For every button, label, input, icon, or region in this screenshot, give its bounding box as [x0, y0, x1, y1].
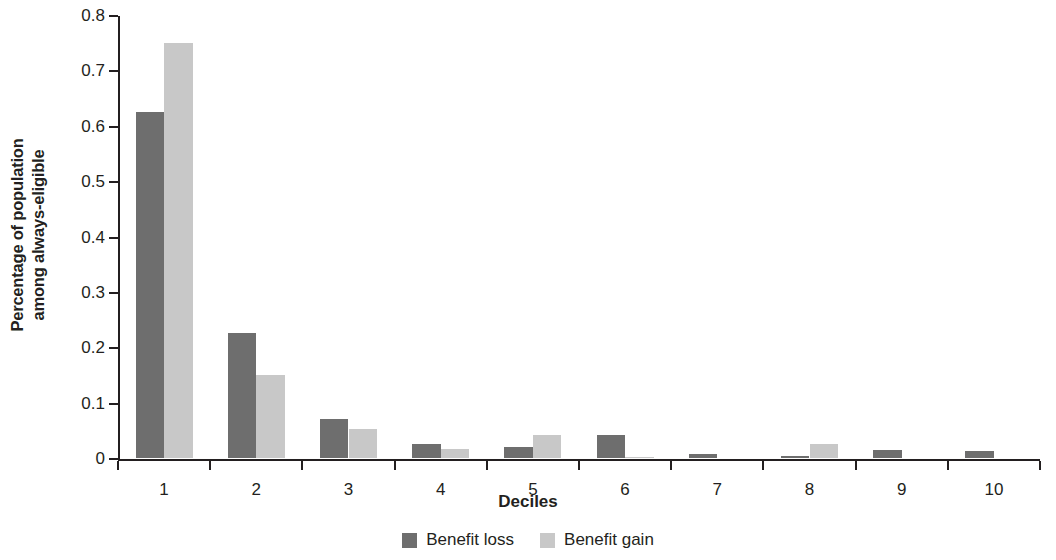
- y-axis-tick-label: 0.5: [81, 172, 105, 192]
- bar: [965, 451, 994, 458]
- x-axis-title: Deciles: [0, 492, 1056, 512]
- x-axis-tick: [486, 461, 488, 470]
- bar: [320, 419, 349, 458]
- legend-item: Benefit gain: [540, 530, 654, 550]
- y-axis-tick-label: 0.2: [81, 338, 105, 358]
- bar: [504, 447, 533, 458]
- y-axis-title: Percentage of population among always-el…: [0, 0, 56, 470]
- bar: [349, 429, 378, 458]
- y-axis-tick: [109, 292, 118, 294]
- y-axis-tick-label: 0.1: [81, 394, 105, 414]
- chart-legend: Benefit lossBenefit gain: [0, 530, 1056, 550]
- y-axis-line: [118, 16, 120, 460]
- y-axis-tick-label: 0.7: [81, 61, 105, 81]
- y-axis-tick: [109, 237, 118, 239]
- bar: [873, 450, 902, 458]
- y-axis-title-line-2: among always-eligible: [28, 138, 49, 331]
- bar: [412, 444, 441, 458]
- x-axis-tick: [117, 461, 119, 470]
- bar: [689, 454, 718, 458]
- y-axis-tick: [109, 181, 118, 183]
- x-axis-tick: [1039, 461, 1041, 470]
- y-axis-tick: [109, 403, 118, 405]
- x-axis-tick: [855, 461, 857, 470]
- y-axis-tick-label: 0.8: [81, 6, 105, 26]
- bar: [256, 375, 285, 458]
- bar: [136, 112, 165, 458]
- bar: [625, 457, 654, 458]
- bar: [441, 449, 470, 458]
- bar-chart-figure: Percentage of population among always-el…: [0, 0, 1056, 560]
- bar: [228, 333, 257, 458]
- x-axis-tick: [209, 461, 211, 470]
- bar: [781, 456, 810, 458]
- legend-item: Benefit loss: [402, 530, 514, 550]
- bar: [533, 435, 562, 458]
- y-axis-tick-label: 0: [96, 449, 105, 469]
- y-axis-tick: [109, 70, 118, 72]
- y-axis-tick-label: 0.3: [81, 283, 105, 303]
- x-axis-tick: [301, 461, 303, 470]
- x-axis-tick: [394, 461, 396, 470]
- legend-label: Benefit gain: [564, 530, 654, 550]
- y-axis-tick: [109, 347, 118, 349]
- x-axis-tick: [762, 461, 764, 470]
- legend-swatch-icon: [540, 533, 555, 548]
- plot-area: 00.10.20.30.40.50.60.70.8 12345678910: [118, 16, 1040, 459]
- x-axis-tick: [670, 461, 672, 470]
- y-axis-tick: [109, 15, 118, 17]
- bar: [810, 444, 839, 458]
- bar: [597, 435, 626, 458]
- y-axis-tick: [109, 458, 118, 460]
- bar: [164, 43, 193, 458]
- y-axis-tick-label: 0.4: [81, 228, 105, 248]
- y-axis-title-line-1: Percentage of population: [7, 138, 28, 331]
- legend-swatch-icon: [402, 533, 417, 548]
- x-axis-tick: [578, 461, 580, 470]
- y-axis-tick: [109, 126, 118, 128]
- legend-label: Benefit loss: [426, 530, 514, 550]
- y-axis-tick-label: 0.6: [81, 117, 105, 137]
- x-axis-tick: [947, 461, 949, 470]
